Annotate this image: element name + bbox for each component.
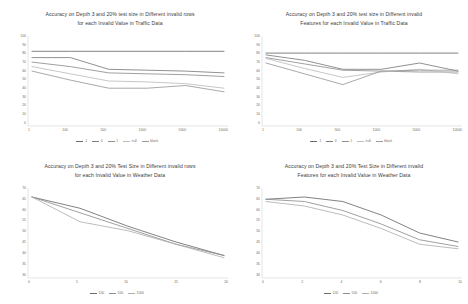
chart-svg [262, 188, 462, 278]
series-line [266, 59, 458, 78]
legend-swatch [343, 293, 350, 294]
x-tick-label: 1 [262, 129, 264, 132]
y-tick-label: 60 [22, 209, 26, 212]
legend-swatch [310, 141, 317, 142]
legend-swatch [108, 141, 115, 142]
chart-legend: 1005001000 [234, 292, 468, 295]
x-tick-label: 1000 [139, 129, 147, 132]
x-tick-label: 6 [380, 281, 382, 284]
plot-area [262, 188, 462, 278]
y-tick-label: 60 [22, 70, 26, 73]
x-tick-label: 100 [62, 129, 68, 132]
legend-item: blank [142, 140, 158, 143]
x-tick-label: 5 [76, 281, 78, 284]
chart-svg [262, 36, 462, 126]
legend-label: 500 [352, 292, 358, 295]
y-axis-labels: 1009080706050403020100 [6, 36, 26, 126]
y-tick-label: 50 [22, 78, 26, 81]
legend-item: 1000 [128, 292, 144, 295]
x-axis-labels: 11005001000500010000 [262, 129, 462, 132]
chart-title: Accuracy on Depth 3 and 20% test size in… [14, 10, 226, 29]
legend-item: 100 [324, 292, 338, 295]
legend-item: 500 [109, 292, 123, 295]
legend-swatch [92, 141, 99, 142]
legend-item: null [123, 140, 137, 143]
legend-item: 1000 [362, 292, 378, 295]
x-tick-label: 10000 [219, 129, 228, 132]
y-tick-label: 30 [256, 274, 260, 277]
legend-swatch [142, 141, 149, 142]
y-tick-label: 90 [22, 44, 26, 47]
legend-swatch [324, 293, 331, 294]
x-tick-label: 0 [28, 281, 30, 284]
x-tick-label: 10000 [453, 129, 462, 132]
y-tick-label: 45 [256, 241, 260, 244]
y-tick-label: 50 [256, 230, 260, 233]
chart-panel-traffic-features: Accuracy on Depth 3 and 20% test size in… [234, 0, 468, 152]
x-tick-label: 100 [296, 129, 302, 132]
y-tick-label: 0 [258, 122, 260, 125]
legend-item: 0 [92, 140, 102, 143]
y-tick-label: 40 [256, 87, 260, 90]
y-tick-label: 60 [256, 70, 260, 73]
legend-item: blank [376, 140, 392, 143]
y-tick-label: 0 [24, 122, 26, 125]
y-tick-label: 50 [256, 78, 260, 81]
chart-legend: -101nullblank [0, 140, 234, 143]
legend-label: 500 [118, 292, 124, 295]
legend-label: blank [384, 140, 392, 143]
x-tick-label: 5000 [413, 129, 421, 132]
y-tick-label: 30 [22, 96, 26, 99]
x-tick-label: 2 [301, 281, 303, 284]
series-line [266, 199, 458, 246]
x-axis-labels: 05101520 [28, 281, 228, 284]
legend-label: blank [150, 140, 158, 143]
legend-item: -1 [310, 140, 321, 143]
y-tick-label: 30 [22, 274, 26, 277]
legend-label: 1 [350, 140, 352, 143]
y-tick-label: 80 [22, 52, 26, 55]
x-tick-label: 8 [419, 281, 421, 284]
legend-swatch [357, 141, 364, 142]
y-tick-label: 90 [256, 44, 260, 47]
y-tick-label: 65 [256, 198, 260, 201]
x-tick-label: 1 [28, 129, 30, 132]
legend-swatch [362, 293, 369, 294]
x-tick-label: 4 [340, 281, 342, 284]
x-tick-label: 10 [458, 281, 462, 284]
legend-swatch [90, 293, 97, 294]
legend-label: 1000 [137, 292, 144, 295]
x-axis-labels: 0246810 [262, 281, 462, 284]
chart-panel-weather-rows: Accuracy on Depth 3 and 20% Test Size in… [0, 152, 234, 304]
legend-label: 100 [333, 292, 339, 295]
x-tick-label: 10 [124, 281, 128, 284]
y-tick-label: 45 [22, 241, 26, 244]
y-axis-labels: 706560555045403530 [6, 188, 26, 278]
chart-title: Accuracy on Depth 3 and 20% Test Size in… [14, 162, 226, 181]
chart-panel-traffic-rows: Accuracy on Depth 3 and 20% test size in… [0, 0, 234, 152]
x-tick-label: 0 [262, 281, 264, 284]
chart-legend: -101nullblank [234, 140, 468, 143]
y-tick-label: 55 [256, 219, 260, 222]
chart-svg [28, 188, 228, 278]
x-tick-label: 1000 [373, 129, 381, 132]
y-tick-label: 80 [256, 52, 260, 55]
y-tick-label: 65 [22, 198, 26, 201]
legend-swatch [376, 141, 383, 142]
legend-swatch [76, 141, 83, 142]
plot-area [28, 36, 228, 126]
legend-item: 500 [343, 292, 357, 295]
y-tick-label: 10 [256, 113, 260, 116]
x-tick-label: 500 [100, 129, 106, 132]
x-tick-label: 15 [174, 281, 178, 284]
x-tick-label: 20 [224, 281, 228, 284]
legend-label: 0 [335, 140, 337, 143]
x-tick-label: 500 [334, 129, 340, 132]
x-axis-labels: 11005001000500010000 [28, 129, 228, 132]
legend-item: 1 [108, 140, 118, 143]
legend-item: 100 [90, 292, 104, 295]
y-tick-label: 20 [256, 104, 260, 107]
legend-label: null [366, 140, 371, 143]
chart-legend: 1005001000 [0, 292, 234, 295]
y-tick-label: 40 [22, 87, 26, 90]
